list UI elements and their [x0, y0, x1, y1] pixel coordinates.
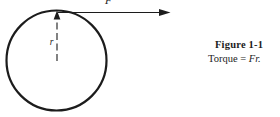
equation-prefix: Torque = — [208, 53, 249, 64]
torque-equation: Torque = Fr. — [208, 52, 263, 66]
radius-label: r — [50, 37, 54, 47]
force-label: F — [104, 0, 112, 6]
figure-number: Figure 1-1 — [215, 38, 263, 52]
equation-math: Fr. — [249, 53, 261, 64]
figure-caption: Figure 1-1 Torque = Fr. — [208, 38, 263, 66]
figure-panel: r F Figure 1-1 Torque = Fr. — [0, 0, 280, 117]
force-arrowhead — [159, 9, 171, 16]
radius-arrowhead — [54, 11, 61, 20]
